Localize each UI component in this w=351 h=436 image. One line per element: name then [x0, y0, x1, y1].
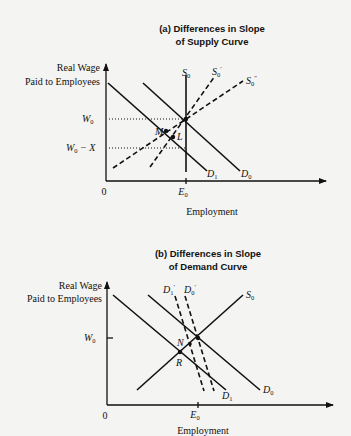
panel-a-label-s0-double-prime: S0″ [246, 74, 257, 87]
panel-a-y-axis-label-line1: Real Wage [57, 62, 101, 73]
panel-a-label-s0: S0 [182, 67, 190, 79]
panel-b-demand-d0 [148, 295, 260, 390]
panel-a-x-axis-label: Employment [186, 206, 238, 217]
panel-b-y-axis-label-line1: Real Wage [59, 280, 103, 291]
panel-a-label-s0-prime: S0′ [212, 65, 222, 78]
panel-b-label-d0-prime: D0′ [183, 283, 196, 296]
panel-b-y-tick-label-w0: W0 [84, 332, 96, 344]
panel-b-label-s0: S0 [246, 289, 254, 301]
panel-b-equilibrium-point [196, 336, 200, 340]
panel-a-label-l: L [176, 131, 183, 142]
panel-b: (b) Differences in Slope of Demand Curve… [27, 248, 333, 436]
panel-b-label-d0: D0 [262, 384, 273, 396]
panel-b-label-r: R [175, 357, 182, 368]
panel-a-title-line2: of Supply Curve [176, 36, 249, 47]
panel-b-origin: 0 [103, 410, 108, 421]
panel-b-label-n: N [176, 337, 185, 348]
panel-a-y-tick-label-w0-minus-x: W0 − X [66, 142, 96, 154]
panel-b-x-axis-label: Employment [177, 425, 229, 436]
panel-a-equilibrium-point [184, 117, 188, 121]
panel-b-y-axis-label-line2: Paid to Employees [27, 293, 102, 304]
panel-a-label-d1: D1 [206, 168, 217, 180]
panel-a-label-d0: D0 [240, 168, 251, 180]
panel-b-label-d1-prime: D1′ [162, 283, 175, 296]
panel-a-title-line1: (a) Differences in Slope [159, 23, 265, 34]
panel-a-y-tick-label-w0: W0 [82, 113, 94, 125]
panel-b-title-line1: (b) Differences in Slope [155, 248, 261, 259]
panel-a-y-axis-label-line2: Paid to Employees [25, 76, 100, 87]
panel-a: (a) Differences in Slope of Supply Curve… [25, 23, 326, 217]
panel-a-x-tick-label-e0: E0 [177, 186, 187, 198]
panel-b-title-line2: of Demand Curve [169, 261, 248, 272]
panel-b-point-n [188, 342, 192, 346]
panel-a-supply-s0-double-prime [113, 81, 243, 168]
panel-a-point-l [171, 135, 175, 139]
panel-b-x-tick-label-e0: E0 [189, 409, 199, 421]
diagram-canvas: (a) Differences in Slope of Supply Curve… [0, 0, 351, 436]
panel-b-label-d1: D1 [221, 390, 232, 402]
panel-b-point-r [178, 350, 182, 354]
panel-a-point-m [164, 129, 168, 133]
panel-a-origin: 0 [102, 186, 107, 197]
panel-a-label-m: M [154, 126, 164, 137]
